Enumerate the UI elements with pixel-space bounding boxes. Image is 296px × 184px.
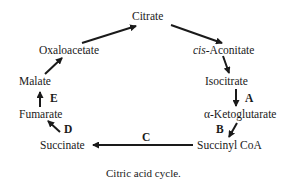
- node-citrate: Citrate: [132, 10, 163, 23]
- cis-aconitate-rest: -Aconitate: [206, 44, 255, 56]
- node-oxaloacetate: Oxaloacetate: [39, 44, 99, 57]
- arrow-citrate-cisaconitate: [171, 25, 222, 43]
- node-alpha-ketoglutarate: α-Ketoglutarate: [204, 108, 276, 121]
- arrow-succinate-fumarate: [48, 121, 60, 132]
- cis-prefix: cis: [193, 44, 206, 56]
- enzyme-label-c: C: [142, 131, 150, 144]
- enzyme-label-d: D: [64, 123, 72, 136]
- node-succinyl-coa: Succinyl CoA: [197, 139, 262, 152]
- enzyme-label-a: A: [245, 92, 253, 105]
- figure-caption: Citric acid cycle.: [106, 167, 181, 179]
- node-succinate: Succinate: [40, 139, 85, 152]
- enzyme-label-e: E: [50, 92, 58, 105]
- node-malate: Malate: [19, 75, 51, 88]
- node-fumarate: Fumarate: [19, 108, 62, 121]
- arrow-cisaconitate-isocitrate: [223, 56, 229, 73]
- node-cis-aconitate: cis-Aconitate: [193, 44, 254, 57]
- node-isocitrate: Isocitrate: [205, 75, 248, 88]
- arrow-ketoglutarate-succinylcoa: [229, 123, 237, 137]
- enzyme-label-b: B: [216, 123, 224, 136]
- arrow-oxaloacetate-citrate: [82, 26, 136, 43]
- arrow-malate-oxaloacetate: [45, 58, 62, 74]
